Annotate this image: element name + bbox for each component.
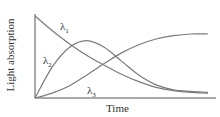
- y-axis-label-text: Light absorption: [4, 18, 16, 91]
- series-label-lambda2: λ2: [43, 54, 52, 69]
- chart-plot: [0, 0, 220, 117]
- series-label-lambda1: λ1: [60, 20, 69, 35]
- y-axis-label: Light absorption: [0, 0, 20, 100]
- series-label-lambda3: λ3: [87, 84, 96, 99]
- series-lambda3-line: [35, 34, 208, 98]
- x-axis-label: Time: [106, 102, 129, 114]
